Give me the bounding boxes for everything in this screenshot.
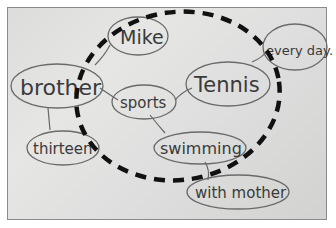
node-every-day: every day. <box>266 43 333 58</box>
mind-map-drawing: Mike brother sports Tennis every day. th… <box>0 0 336 228</box>
connector-swimming-withmother <box>205 162 209 180</box>
node-thirteen: thirteen <box>33 140 93 158</box>
node-swimming: swimming <box>160 139 242 158</box>
node-sports: sports <box>120 94 167 112</box>
connector-brother-thirteen <box>48 108 50 130</box>
node-mike: Mike <box>120 26 164 48</box>
mind-map-photo: Mike brother sports Tennis every day. th… <box>0 0 336 228</box>
connector-sports-tennis <box>175 88 192 100</box>
node-brother: brother <box>20 75 102 100</box>
connector-brother-mike <box>95 45 110 65</box>
node-tennis: Tennis <box>193 73 260 97</box>
node-with-mother: with mother <box>195 184 287 202</box>
